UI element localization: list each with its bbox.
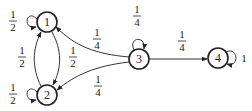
label-3-1: 1 4 bbox=[93, 26, 101, 51]
svg-text:2: 2 bbox=[10, 21, 16, 33]
svg-text:1: 1 bbox=[44, 15, 50, 29]
svg-text:3: 3 bbox=[136, 52, 142, 66]
label-3-3: 1 4 bbox=[133, 3, 141, 28]
label-1-1: 1 2 bbox=[9, 8, 17, 33]
svg-text:1: 1 bbox=[134, 3, 140, 15]
svg-text:4: 4 bbox=[95, 86, 101, 98]
edge-3-2 bbox=[57, 62, 129, 90]
svg-text:1: 1 bbox=[179, 28, 185, 40]
node-1: 1 bbox=[37, 12, 57, 32]
label-4-4: 1 bbox=[241, 52, 247, 64]
svg-text:1: 1 bbox=[241, 52, 247, 64]
svg-text:4: 4 bbox=[179, 41, 185, 53]
svg-text:1: 1 bbox=[10, 81, 16, 93]
label-2-2: 1 2 bbox=[9, 81, 17, 106]
svg-text:2: 2 bbox=[19, 57, 25, 69]
edge-2-2 bbox=[27, 89, 37, 100]
label-3-4: 1 4 bbox=[178, 28, 186, 53]
node-2: 2 bbox=[37, 85, 57, 105]
svg-text:4: 4 bbox=[134, 16, 140, 28]
edge-1-1 bbox=[27, 16, 37, 27]
label-2-1: 1 2 bbox=[18, 44, 26, 69]
edge-3-1 bbox=[56, 27, 129, 57]
svg-text:4: 4 bbox=[215, 51, 221, 65]
label-1-2: 1 2 bbox=[69, 44, 77, 69]
svg-text:1: 1 bbox=[94, 26, 100, 38]
svg-text:2: 2 bbox=[10, 94, 16, 106]
svg-text:1: 1 bbox=[95, 73, 101, 85]
svg-text:1: 1 bbox=[10, 8, 16, 20]
markov-chain-diagram: 1 2 3 4 1 2 1 2 1 2 1 2 1 4 1 4 bbox=[0, 0, 252, 111]
svg-text:2: 2 bbox=[70, 57, 76, 69]
svg-text:2: 2 bbox=[44, 88, 50, 102]
edge-2-1 bbox=[34, 32, 41, 86]
node-3: 3 bbox=[129, 49, 149, 69]
svg-text:4: 4 bbox=[94, 39, 100, 51]
label-3-2: 1 4 bbox=[94, 73, 102, 98]
edge-1-2 bbox=[52, 32, 60, 85]
svg-text:1: 1 bbox=[19, 44, 25, 56]
node-4: 4 bbox=[208, 48, 228, 68]
svg-text:1: 1 bbox=[70, 44, 76, 56]
